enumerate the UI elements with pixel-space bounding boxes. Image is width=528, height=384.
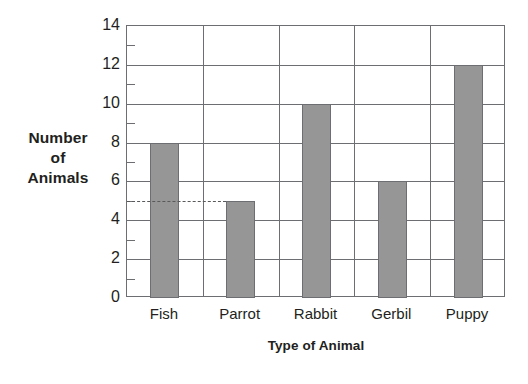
- y-tick-label-4: 4: [80, 211, 120, 227]
- bar-puppy: [454, 65, 483, 298]
- y-tick-label-0: 0: [80, 289, 120, 305]
- minor-tick-y-7: [127, 162, 135, 163]
- x-tick-label-fish: Fish: [126, 303, 202, 325]
- y-tick-label-10: 10: [80, 95, 120, 111]
- category-separator-2: [279, 26, 280, 296]
- minor-tick-y-11: [127, 84, 135, 85]
- x-axis-tick-labels: FishParrotRabbitGerbilPuppy: [126, 303, 505, 329]
- x-tick-label-parrot: Parrot: [202, 303, 278, 325]
- y-tick-label-2: 2: [80, 250, 120, 266]
- x-axis-title: Type of Animal: [126, 338, 506, 353]
- category-separator-4: [430, 26, 431, 296]
- y-tick-label-14: 14: [80, 17, 120, 33]
- y-tick-label-12: 12: [80, 56, 120, 72]
- x-tick-label-puppy: Puppy: [429, 303, 505, 325]
- minor-tick-y-13: [127, 45, 135, 46]
- x-tick-label-gerbil: Gerbil: [353, 303, 429, 325]
- bar-gerbil: [378, 181, 407, 298]
- plot-area: [126, 25, 505, 297]
- reference-line-5: [127, 201, 226, 202]
- category-separator-3: [354, 26, 355, 296]
- x-tick-label-rabbit: Rabbit: [278, 303, 354, 325]
- minor-tick-y-3: [127, 240, 135, 241]
- bar-rabbit: [302, 104, 331, 298]
- bar-fish: [150, 143, 179, 298]
- bar-chart: Number of Animals 02468101214 FishParrot…: [0, 0, 528, 384]
- y-axis-tick-labels: 02468101214: [76, 25, 120, 297]
- gridline-y-12: [127, 65, 504, 66]
- y-tick-label-8: 8: [80, 134, 120, 150]
- y-tick-label-6: 6: [80, 172, 120, 188]
- bar-parrot: [226, 201, 255, 298]
- minor-tick-y-9: [127, 123, 135, 124]
- category-separator-1: [203, 26, 204, 296]
- minor-tick-y-1: [127, 279, 135, 280]
